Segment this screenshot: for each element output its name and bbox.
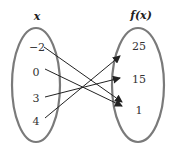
- domain-value: 3: [33, 92, 40, 105]
- domain-value: 0: [33, 66, 40, 79]
- arrow-4-to-25: [45, 56, 120, 118]
- range-value: 15: [132, 73, 146, 86]
- range-header: f(x): [130, 9, 152, 22]
- domain-header: x: [34, 10, 41, 23]
- domain-value: −2: [29, 41, 45, 54]
- range-value: 1: [136, 104, 143, 117]
- range-value: 25: [132, 40, 146, 53]
- domain-value: 4: [33, 115, 40, 128]
